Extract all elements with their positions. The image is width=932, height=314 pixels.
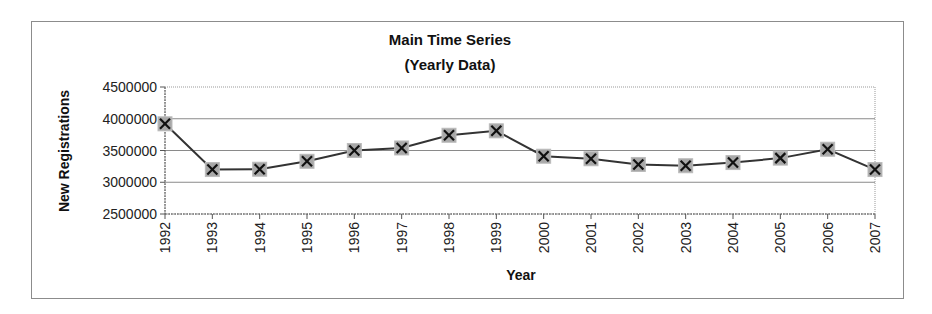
x-tick-label: 1993 [204,222,220,253]
x-tick-label: 2002 [630,222,646,253]
data-point-marker [821,142,835,156]
data-point-marker [631,157,645,171]
x-tick-label: 2004 [725,222,741,253]
data-point-marker [253,162,267,176]
x-tick-label: 1992 [157,222,173,253]
data-point-marker [205,163,219,177]
x-tick-label: 1999 [488,222,504,253]
data-point-marker [773,151,787,165]
data-point-marker [395,141,409,155]
x-tick-label: 2007 [867,222,883,253]
y-tick-label: 3000000 [102,174,157,190]
data-point-marker [726,156,740,170]
x-tick-label: 2005 [772,222,788,253]
x-axis-title: Year [506,267,536,283]
y-tick-label: 4000000 [102,111,157,127]
data-point-marker [442,128,456,142]
gridlines [160,87,875,214]
data-point-marker [158,117,172,131]
x-tick-label: 2006 [820,222,836,253]
data-series [158,117,882,177]
data-point-marker [489,124,503,138]
x-tick-label: 1996 [346,222,362,253]
x-tick-label: 1997 [394,222,410,253]
data-point-marker [868,163,882,177]
x-tick-label: 1998 [441,222,457,253]
y-tick-label: 3500000 [102,143,157,159]
x-tick-label: 1994 [252,222,268,253]
x-tick-label: 2000 [536,222,552,253]
y-axis-title: New Registrations [56,90,72,212]
x-tick-label: 2003 [678,222,694,253]
line-chart: Main Time Series (Yearly Data) 250000030… [0,0,932,314]
data-point-marker [300,154,314,168]
data-point-marker [537,149,551,163]
y-axis-tick-labels: 25000003000000350000040000004500000 [102,79,157,222]
x-axis-tick-labels: 1992199319941995199619971998199920002001… [157,214,883,253]
data-point-marker [584,152,598,166]
data-point-marker [679,159,693,173]
chart-title: Main Time Series [389,31,511,48]
chart-subtitle: (Yearly Data) [405,56,496,73]
y-tick-label: 4500000 [102,79,157,95]
data-point-marker [347,144,361,158]
series-line [165,124,875,170]
x-tick-label: 1995 [299,222,315,253]
x-tick-label: 2001 [583,222,599,253]
y-tick-label: 2500000 [102,206,157,222]
